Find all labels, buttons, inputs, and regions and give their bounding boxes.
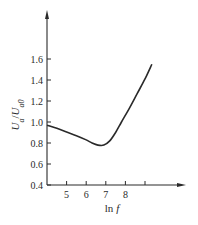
x-ticks: 5678	[64, 181, 145, 200]
x-tick-label: 7	[103, 189, 108, 200]
chart: 0.40.60.81.01.21.41.6 5678 ln f Ua/Ua0	[0, 0, 198, 225]
y-tick-label: 1.4	[31, 75, 44, 86]
x-tick-label: 6	[84, 189, 89, 200]
x-axis-arrow-icon	[177, 183, 186, 187]
x-tick-label: 5	[64, 189, 69, 200]
y-ticks: 0.40.60.81.01.21.41.6	[31, 54, 52, 191]
x-axis-label: ln f	[105, 202, 121, 214]
y-tick-label: 0.6	[31, 159, 44, 170]
y-tick-label: 1.0	[31, 117, 44, 128]
data-line	[47, 64, 152, 145]
y-axis-arrow-icon	[45, 10, 49, 19]
y-tick-label: 1.2	[31, 96, 44, 107]
x-tick-label: 8	[123, 189, 128, 200]
y-tick-label: 0.4	[31, 180, 44, 191]
y-tick-label: 1.6	[31, 54, 44, 65]
y-tick-label: 0.8	[31, 138, 44, 149]
y-axis-label: Ua/Ua0	[9, 100, 26, 131]
